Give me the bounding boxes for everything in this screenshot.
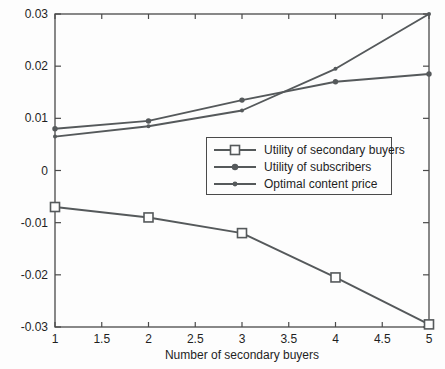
x-tick-label: 5 [426, 332, 433, 346]
y-tick-label: 0.01 [25, 111, 49, 125]
dot-marker [146, 118, 151, 123]
dot-marker [52, 126, 57, 131]
x-tick-label: 1.5 [93, 332, 110, 346]
legend-label: Optimal content price [264, 177, 377, 191]
y-tick-label: 0.02 [25, 59, 49, 73]
open-square-marker [238, 229, 247, 238]
series-line-2 [55, 14, 429, 137]
dot-marker-icon [213, 160, 257, 174]
x-tick-label: 3.5 [280, 332, 297, 346]
y-tick-label: -0.02 [21, 268, 49, 282]
dot-marker [232, 163, 238, 169]
series-line-0 [55, 207, 429, 324]
x-tick-label: 2 [145, 332, 152, 346]
open-square-marker [331, 273, 340, 282]
dot-marker [239, 97, 244, 102]
y-tick-label: -0.01 [21, 216, 49, 230]
y-tick-label: 0.03 [25, 7, 49, 21]
legend-item: Optimal content price [213, 175, 387, 192]
legend-label: Utility of subscribers [264, 160, 371, 174]
dot-marker [426, 71, 431, 76]
point-marker [427, 12, 431, 16]
open-square-marker [231, 145, 240, 154]
x-axis-label: Number of secondary buyers [55, 348, 429, 362]
point-marker [334, 67, 338, 71]
open-square-marker [51, 203, 60, 212]
point-marker [240, 109, 244, 113]
legend: Utility of secondary buyers Utility of s… [206, 137, 392, 195]
point-marker [233, 181, 238, 186]
legend-item: Utility of subscribers [213, 158, 387, 175]
figure: 11.522.533.544.550.030.020.010-0.01-0.02… [0, 0, 445, 369]
x-tick-label: 3 [239, 332, 246, 346]
y-tick-label: -0.03 [21, 320, 49, 334]
dot-marker [333, 79, 338, 84]
open-square-marker [144, 213, 153, 222]
point-marker [53, 135, 57, 139]
x-tick-label: 4.5 [374, 332, 391, 346]
legend-item: Utility of secondary buyers [213, 141, 387, 158]
x-tick-label: 4 [332, 332, 339, 346]
point-marker-icon [213, 177, 257, 191]
y-tick-label: 0 [41, 164, 48, 178]
x-tick-label: 1 [52, 332, 59, 346]
legend-label: Utility of secondary buyers [264, 143, 405, 157]
open-square-marker [425, 320, 434, 329]
x-tick-label: 2.5 [187, 332, 204, 346]
open-square-marker-icon [213, 143, 257, 157]
point-marker [147, 124, 151, 128]
